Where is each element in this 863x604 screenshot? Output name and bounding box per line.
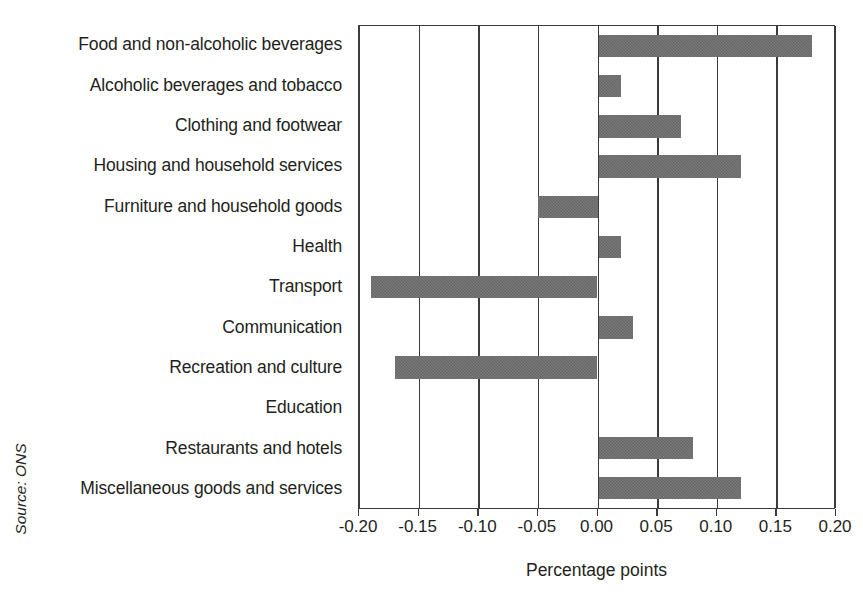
- table-row: [359, 227, 834, 267]
- x-axis-tick: [358, 509, 359, 516]
- category-label: Transport: [0, 267, 352, 307]
- bar: [598, 155, 741, 177]
- table-row: [359, 388, 834, 428]
- x-axis-tick: [418, 509, 419, 516]
- x-axis-ticks: [358, 509, 835, 517]
- x-axis-tick-label: -0.05: [518, 517, 557, 537]
- x-axis-tick-labels: -0.20-0.15-0.10-0.050.000.050.100.150.20: [358, 517, 835, 543]
- category-label: Recreation and culture: [0, 348, 352, 388]
- bar: [598, 115, 681, 137]
- zero-axis-line: [598, 26, 600, 508]
- bar: [598, 75, 622, 97]
- category-label: Health: [0, 227, 352, 267]
- x-axis-tick-label: -0.20: [339, 517, 378, 537]
- bar: [395, 356, 598, 378]
- x-axis-tick-label: 0.20: [818, 517, 851, 537]
- x-axis-tick: [537, 509, 538, 516]
- table-row: [359, 307, 834, 347]
- x-axis-tick: [835, 509, 836, 516]
- bar: [598, 316, 634, 338]
- source-note: Source: ONS: [12, 434, 30, 544]
- x-axis-tick-label: 0.00: [580, 517, 613, 537]
- category-label: Food and non-alcoholic beverages: [0, 25, 352, 65]
- category-label: Housing and household services: [0, 146, 352, 186]
- table-row: [359, 267, 834, 307]
- category-label: Education: [0, 388, 352, 428]
- category-axis-labels: Food and non-alcoholic beveragesAlcoholi…: [0, 25, 352, 509]
- category-label: Furniture and household goods: [0, 186, 352, 226]
- gridline: [835, 26, 836, 508]
- bar: [598, 236, 622, 258]
- x-axis-tick-label: -0.15: [398, 517, 437, 537]
- x-axis-tick: [716, 509, 717, 516]
- table-row: [359, 106, 834, 146]
- table-row: [359, 468, 834, 508]
- bar: [598, 35, 813, 57]
- x-axis-tick-label: -0.10: [458, 517, 497, 537]
- x-axis-tick-label: 0.10: [699, 517, 732, 537]
- table-row: [359, 147, 834, 187]
- bar-rows: [359, 26, 834, 508]
- bar: [598, 477, 741, 499]
- x-axis-tick: [656, 509, 657, 516]
- bar: [598, 437, 693, 459]
- bar-chart: Food and non-alcoholic beveragesAlcoholi…: [0, 0, 863, 604]
- category-label: Alcoholic beverages and tobacco: [0, 65, 352, 105]
- x-axis-tick: [775, 509, 776, 516]
- category-label: Clothing and footwear: [0, 106, 352, 146]
- category-label: Miscellaneous goods and services: [0, 469, 352, 509]
- category-label: Restaurants and hotels: [0, 428, 352, 468]
- table-row: [359, 347, 834, 387]
- category-label: Communication: [0, 307, 352, 347]
- plot-area: [358, 25, 835, 509]
- bar: [371, 276, 598, 298]
- table-row: [359, 26, 834, 66]
- table-row: [359, 66, 834, 106]
- x-axis-tick: [597, 509, 598, 516]
- x-axis-tick-label: 0.15: [759, 517, 792, 537]
- bar: [538, 196, 598, 218]
- table-row: [359, 187, 834, 227]
- x-axis-tick-label: 0.05: [640, 517, 673, 537]
- x-axis-title: Percentage points: [358, 560, 835, 581]
- table-row: [359, 428, 834, 468]
- x-axis-tick: [477, 509, 478, 516]
